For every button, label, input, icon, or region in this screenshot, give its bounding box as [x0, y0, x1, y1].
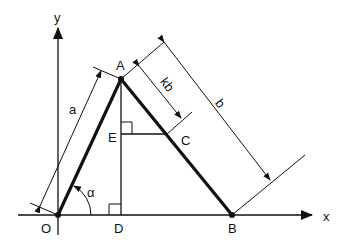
label-O: O — [41, 221, 51, 236]
dimension-b-label: b — [212, 96, 228, 111]
x-axis-label: x — [323, 209, 330, 224]
geometry-diagram: x y a b kb α — [0, 0, 345, 245]
dimension-b — [121, 42, 305, 215]
right-angle-D — [109, 204, 121, 215]
label-B: B — [228, 221, 237, 236]
label-A: A — [116, 58, 125, 73]
member-AB — [121, 79, 232, 215]
label-E: E — [108, 130, 117, 145]
dimension-a-label: a — [69, 102, 77, 117]
right-angle-E — [121, 122, 132, 134]
y-axis-label: y — [54, 10, 61, 25]
label-D: D — [114, 221, 123, 236]
angle-alpha-label: α — [87, 185, 95, 200]
label-C: C — [181, 133, 190, 148]
